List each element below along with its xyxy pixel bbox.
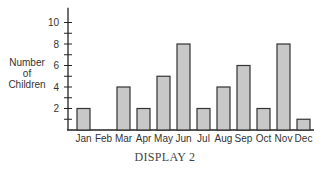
bar-apr <box>137 109 150 131</box>
y-tick-label: 6 <box>53 60 59 71</box>
x-tick-label: Jul <box>197 133 210 144</box>
x-axis-labels: JanFebMarAprMayJunJulAugSepOctNovDec <box>75 133 312 144</box>
x-tick-label: Dec <box>295 133 313 144</box>
x-tick-label: Mar <box>115 133 133 144</box>
y-axis-title-line: Number <box>9 57 45 68</box>
bar-mar <box>117 87 130 130</box>
y-axis-title-line: Children <box>8 79 45 90</box>
bar-jan <box>77 109 90 131</box>
bar-oct <box>257 109 270 131</box>
x-tick-label: Aug <box>215 133 233 144</box>
bar-dec <box>297 119 310 130</box>
x-tick-label: Feb <box>95 133 113 144</box>
bar-chart: 246810 JanFebMarAprMayJunJulAugSepOctNov… <box>0 0 330 150</box>
x-tick-label: May <box>154 133 173 144</box>
x-tick-label: Apr <box>136 133 152 144</box>
x-tick-label: Jun <box>175 133 191 144</box>
bar-jul <box>197 109 210 131</box>
y-tick-label: 2 <box>53 103 59 114</box>
x-tick-label: Jan <box>75 133 91 144</box>
bar-sep <box>237 66 250 131</box>
x-tick-label: Oct <box>256 133 272 144</box>
x-tick-label: Sep <box>235 133 253 144</box>
bar-nov <box>277 44 290 130</box>
y-tick-label: 4 <box>53 82 59 93</box>
bars <box>77 44 310 130</box>
y-axis-title: NumberofChildren <box>8 57 45 90</box>
bar-aug <box>217 87 230 130</box>
bar-may <box>157 76 170 130</box>
y-axis-title-line: of <box>23 68 32 79</box>
y-tick-label: 10 <box>48 17 60 28</box>
x-tick-label: Nov <box>275 133 293 144</box>
bar-jun <box>177 44 190 130</box>
y-tick-label: 8 <box>53 39 59 50</box>
chart-caption: DISPLAY 2 <box>0 150 330 165</box>
